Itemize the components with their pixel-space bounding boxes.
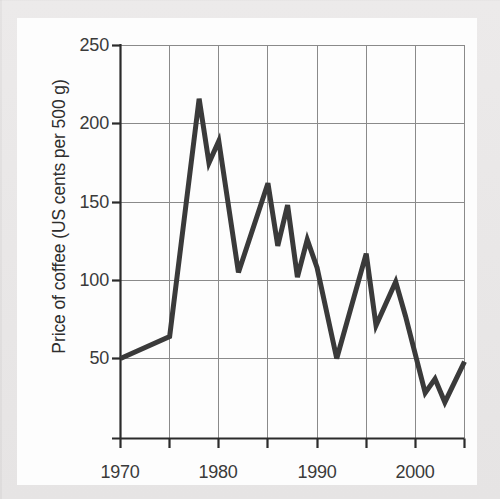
screenshot-page: Price of coffee (US cents per 500 g) 250…: [0, 0, 500, 499]
coffee-price-chart: Price of coffee (US cents per 500 g) 250…: [17, 18, 477, 485]
y-axis-spine: [112, 44, 121, 439]
coffee-price-line: [121, 99, 465, 403]
figure-card: Price of coffee (US cents per 500 g) 250…: [17, 18, 477, 485]
x-axis-spine: [112, 439, 465, 449]
plot-area: [17, 18, 477, 485]
